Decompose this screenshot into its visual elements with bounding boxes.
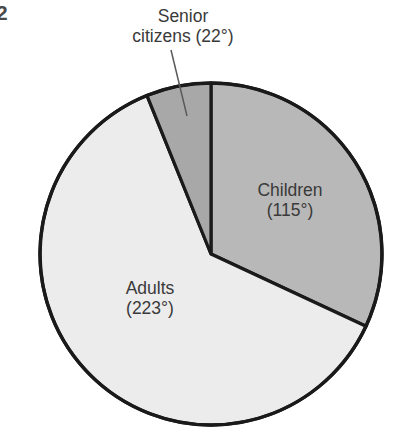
pie-label-children-line2: (115°) bbox=[234, 200, 346, 220]
pie-label-senior-citizens-line2: citizens (22°) bbox=[98, 26, 268, 46]
pie-label-children: Children (115°) bbox=[234, 180, 346, 221]
pie-label-adults-line2: (223°) bbox=[96, 298, 204, 318]
pie-label-senior-citizens-line1: Senior bbox=[158, 6, 209, 26]
pie-label-senior-citizens: Senior citizens (22°) bbox=[98, 6, 268, 47]
pie-label-adults: Adults (223°) bbox=[96, 278, 204, 319]
pie-label-adults-line1: Adults bbox=[126, 278, 175, 298]
pie-slices bbox=[40, 83, 382, 425]
pie-chart-figure: 2 Senior citizens (22°) Children (115°) … bbox=[0, 0, 397, 433]
pie-label-children-line1: Children bbox=[257, 180, 322, 200]
